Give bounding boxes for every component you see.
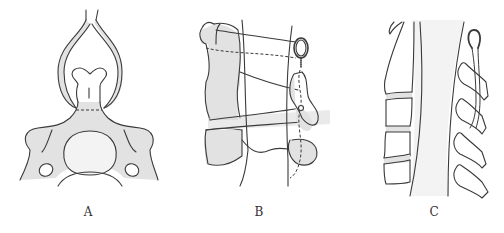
axial-vertebra-illustration	[0, 0, 170, 200]
posterior-spine-illustration	[170, 0, 340, 200]
panel-label-c: C	[424, 205, 444, 219]
panel-c: C	[340, 0, 504, 233]
panel-a: A	[0, 0, 170, 233]
panel-b: B	[170, 0, 340, 233]
panel-label-b: B	[249, 205, 269, 219]
panel-label-a: A	[78, 205, 98, 219]
sagittal-spine-illustration	[340, 0, 504, 200]
